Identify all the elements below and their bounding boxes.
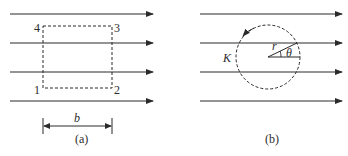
loop-direction-arrow bbox=[243, 28, 254, 36]
corner-label-4: 4 bbox=[34, 21, 40, 35]
caption-b: (b) bbox=[265, 132, 279, 146]
rectangular-loop bbox=[43, 26, 112, 88]
caption-a: (a) bbox=[75, 132, 88, 146]
diagram-canvas: 4 3 1 2 b (a) r θ K (b) bbox=[0, 0, 348, 156]
panel-b: r θ K (b) bbox=[200, 14, 342, 146]
dimension-label: b bbox=[74, 111, 80, 125]
corner-label-1: 1 bbox=[34, 83, 40, 97]
corner-label-3: 3 bbox=[114, 21, 120, 35]
angle-label: θ bbox=[286, 46, 292, 60]
radius-label: r bbox=[272, 39, 277, 53]
loop-label-K: K bbox=[222, 51, 232, 65]
angle-arc bbox=[280, 51, 281, 57]
corner-label-2: 2 bbox=[114, 83, 120, 97]
figure: 4 3 1 2 b (a) r θ K (b) bbox=[0, 0, 348, 156]
panel-a: 4 3 1 2 b (a) bbox=[10, 14, 153, 146]
